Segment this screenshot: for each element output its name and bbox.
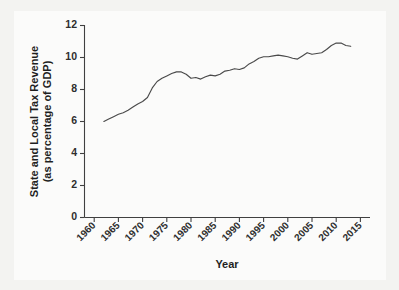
y-tick-label-8: 8 xyxy=(71,82,77,94)
x-tick-labels: 1960 1965 1970 1975 1980 1985 1990 1995 … xyxy=(74,219,364,243)
line-chart: 0 2 4 6 8 10 12 1960 1965 1970 xyxy=(0,0,399,290)
y-axis-title-line2: (as percentage of GDP) xyxy=(41,60,53,182)
y-tick-label-10: 10 xyxy=(65,50,77,62)
x-tick-label-2005: 2005 xyxy=(292,219,316,243)
y-axis-title-line1: State and Local Tax Revenue xyxy=(28,46,40,197)
x-tick-label-2000: 2000 xyxy=(268,219,292,243)
x-tick-label-1985: 1985 xyxy=(195,219,219,243)
x-tick-label-1975: 1975 xyxy=(147,219,171,243)
x-tick-label-1970: 1970 xyxy=(123,219,147,243)
x-tick-label-2010: 2010 xyxy=(316,219,340,243)
x-tick-label-1980: 1980 xyxy=(171,219,195,243)
y-tick-label-4: 4 xyxy=(71,146,77,158)
y-tick-labels: 0 2 4 6 8 10 12 xyxy=(65,18,77,222)
y-tick-label-6: 6 xyxy=(71,114,77,126)
y-tick-marks xyxy=(80,26,85,218)
data-series-line xyxy=(104,43,351,121)
x-tick-label-2015: 2015 xyxy=(340,219,364,243)
figure-root: 0 2 4 6 8 10 12 1960 1965 1970 xyxy=(0,0,399,290)
y-tick-label-0: 0 xyxy=(71,210,77,222)
x-tick-label-1995: 1995 xyxy=(244,219,268,243)
y-tick-label-2: 2 xyxy=(71,178,77,190)
x-tick-marks xyxy=(94,218,360,223)
x-tick-label-1960: 1960 xyxy=(74,219,98,243)
x-tick-label-1990: 1990 xyxy=(219,219,243,243)
y-tick-label-12: 12 xyxy=(65,18,77,30)
x-axis-title: Year xyxy=(215,258,239,270)
x-tick-label-1965: 1965 xyxy=(98,219,122,243)
